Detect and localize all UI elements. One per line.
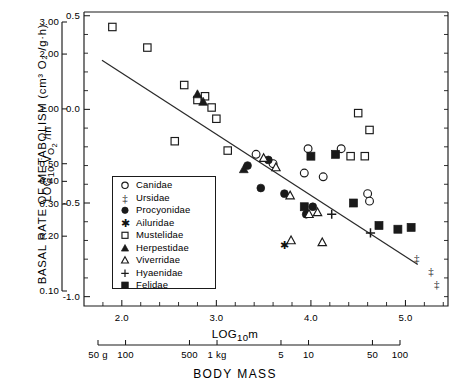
plus-icon — [117, 267, 135, 280]
open-circle-icon — [117, 179, 135, 192]
legend-label: Ursidae — [136, 192, 170, 205]
legend-label: Ailuridae — [136, 217, 174, 230]
xtick-inner-3: 5.0 — [389, 312, 421, 323]
ytick-outer-2: 1.00 — [26, 103, 59, 114]
data-point — [366, 197, 374, 205]
data-point: ‡ — [434, 278, 440, 290]
data-point — [181, 81, 188, 88]
data-point — [407, 223, 415, 231]
data-point — [300, 203, 308, 211]
filled-triangle-icon — [117, 242, 135, 255]
asterisk-icon: ✱ — [117, 217, 135, 230]
legend-item-ailuridae: ✱Ailuridae — [113, 217, 215, 230]
data-point — [354, 109, 361, 116]
data-point — [109, 23, 116, 30]
legend-label: Herpestidae — [136, 242, 189, 255]
xtick-inner-1: 3.0 — [200, 312, 232, 323]
data-point — [349, 199, 357, 207]
legend-label: Felidae — [136, 279, 168, 292]
data-point — [347, 152, 354, 159]
ytick-outer-6: 0.20 — [26, 230, 59, 241]
data-point: ‡ — [414, 252, 420, 264]
data-point — [366, 126, 373, 133]
data-point — [144, 44, 151, 51]
legend-label: Mustelidae — [136, 229, 183, 242]
legend-box: Canidae‡UrsidaeProcyonidae✱AiluridaeMust… — [112, 176, 216, 289]
legend-item-herpestidae: Herpestidae — [113, 242, 215, 255]
legend-item-canidae: Canidae — [113, 179, 215, 192]
ytick-outer-5: 0.30 — [26, 198, 59, 209]
legend-label: Procyonidae — [136, 204, 190, 217]
ytick-outer-0: 3.00 — [26, 16, 59, 27]
ytick-outer-7: 0.10 — [26, 285, 59, 296]
data-point — [213, 115, 220, 122]
data-point — [208, 104, 215, 111]
data-point — [224, 147, 231, 154]
legend-label: Hyaenidae — [136, 267, 183, 280]
legend-label: Viverridae — [136, 254, 180, 267]
filled-square-icon — [117, 279, 135, 292]
legend-item-procyonidae: Procyonidae — [113, 204, 215, 217]
data-point — [318, 238, 326, 246]
data-point — [319, 173, 327, 181]
xtick-outer-7: 100 — [383, 349, 417, 360]
xtick-outer-3: 1 kg — [200, 349, 234, 360]
data-point — [257, 184, 265, 192]
series-felidae — [300, 150, 415, 233]
xtick-inner-2: 4.0 — [295, 312, 327, 323]
chart-root: BASAL RATE OF METABOLISM (cm³ O₂ /g·h) L… — [0, 0, 470, 386]
data-point: ✱ — [280, 239, 289, 251]
data-point — [394, 225, 402, 233]
legend-item-viverridae: Viverridae — [113, 254, 215, 267]
filled-circle-icon — [117, 204, 135, 217]
data-point — [252, 150, 260, 158]
series-ursidae: ‡‡‡ — [414, 252, 440, 290]
legend-item-hyaenidae: Hyaenidae — [113, 267, 215, 280]
ytick-outer-3: 0.50 — [26, 158, 59, 169]
series-herpestidae — [193, 90, 248, 173]
svg-text:✱: ✱ — [121, 217, 130, 229]
data-point — [361, 152, 368, 159]
series-ailuridae: ✱ — [280, 239, 289, 251]
double-dagger-icon: ‡ — [117, 192, 135, 205]
data-point — [375, 221, 383, 229]
xtick-outer-1: 100 — [109, 349, 143, 360]
open-square-icon — [117, 229, 135, 242]
legend-item-mustelidae: Mustelidae — [113, 229, 215, 242]
data-point — [307, 152, 315, 160]
xtick-outer-5: 10 — [292, 349, 326, 360]
series-mustelidae — [109, 23, 374, 160]
plot-canvas: ‡‡‡✱ — [0, 0, 470, 386]
data-point — [193, 90, 202, 98]
data-point — [309, 203, 317, 211]
series-hyaenidae — [327, 210, 375, 238]
ytick-outer-4: 0.40 — [26, 175, 59, 186]
open-triangle-icon — [117, 254, 135, 267]
data-point — [300, 169, 308, 177]
data-point — [331, 150, 339, 158]
legend-item-felidae: Felidae — [113, 279, 215, 292]
data-point — [171, 138, 178, 145]
data-point — [364, 190, 372, 198]
legend-label: Canidae — [136, 179, 172, 192]
ytick-outer-1: 2.00 — [26, 48, 59, 59]
data-point: ‡ — [428, 265, 434, 277]
svg-text:‡: ‡ — [122, 191, 128, 203]
data-point — [304, 145, 312, 153]
xtick-inner-0: 2.0 — [106, 312, 138, 323]
legend-item-ursidae: ‡Ursidae — [113, 192, 215, 205]
